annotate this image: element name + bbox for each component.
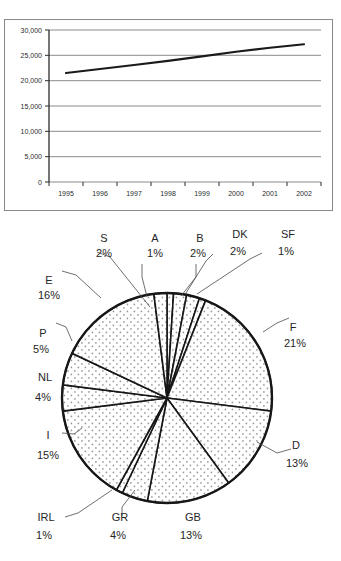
pie-label-SF-pct: 1%	[278, 245, 294, 257]
pie-label-IRL-name: IRL	[37, 511, 54, 523]
pie-label-B-pct: 2%	[190, 247, 206, 259]
x-tick-label-2001: 2001	[262, 190, 278, 197]
x-tick-label-1995: 1995	[58, 190, 74, 197]
pie-label-DK-pct: 2%	[230, 245, 246, 257]
x-tick-label-1999: 1999	[194, 190, 210, 197]
x-tick-label-1998: 1998	[160, 190, 176, 197]
x-axis-ticks	[49, 182, 321, 186]
pie-label-E-pct: 16%	[38, 289, 60, 301]
pie-label-B-name: B	[196, 232, 203, 244]
y-tick-label-5000: 5,000	[24, 153, 42, 160]
pie-chart-panel: S 2% A 1% B 2% DK 2% SF 1% E 16% F 21% P…	[0, 219, 341, 561]
pie-label-GB-pct: 13%	[180, 529, 202, 541]
x-tick-label-1997: 1997	[126, 190, 142, 197]
pie-label-DK-name: DK	[232, 228, 248, 240]
pie-label-GR-name: GR	[112, 511, 129, 523]
pie-label-NL-pct: 4%	[35, 391, 51, 403]
y-tick-label-30000: 30,000	[21, 27, 43, 34]
pie-label-P-pct: 5%	[33, 343, 49, 355]
pie-label-F-pct: 21%	[284, 337, 306, 349]
pie-label-A-name: A	[151, 232, 159, 244]
y-tick-label-0: 0	[38, 179, 42, 186]
x-tick-label-2002: 2002	[296, 190, 312, 197]
pie-label-GR-pct: 4%	[110, 529, 126, 541]
pie-label-I-name: I	[46, 429, 49, 441]
y-tick-label-10000: 10,000	[21, 128, 43, 135]
pie-chart: S 2% A 1% B 2% DK 2% SF 1% E 16% F 21% P…	[0, 219, 341, 561]
line-chart: 30,000 25,000 20,000 15,000 10,000 5,000…	[5, 20, 332, 210]
pie-label-S-pct: 2%	[96, 247, 112, 259]
x-tick-label-2000: 2000	[228, 190, 244, 197]
pie-label-E-name: E	[45, 274, 52, 286]
pie-label-D-name: D	[292, 439, 300, 451]
y-tick-label-20000: 20,000	[21, 77, 43, 84]
pie-label-F-name: F	[290, 321, 297, 333]
y-tick-label-25000: 25,000	[21, 52, 43, 59]
x-tick-label-1996: 1996	[92, 190, 108, 197]
y-tick-label-15000: 15,000	[21, 103, 43, 110]
pie-label-P-name: P	[39, 327, 46, 339]
pie-label-A-pct: 1%	[147, 247, 163, 259]
pie-label-GB-name: GB	[185, 511, 201, 523]
line-chart-panel: 30,000 25,000 20,000 15,000 10,000 5,000…	[4, 19, 333, 211]
pie-label-IRL-pct: 1%	[36, 529, 52, 541]
pie-label-SF-name: SF	[281, 228, 295, 240]
pie-label-D-pct: 13%	[286, 457, 308, 469]
pie-label-I-pct: 15%	[37, 449, 59, 461]
pie-label-NL-name: NL	[38, 371, 52, 383]
pie-label-S-name: S	[100, 232, 107, 244]
